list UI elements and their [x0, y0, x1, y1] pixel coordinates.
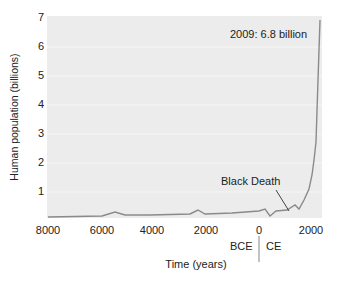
- y-axis-label: Human population (billions): [8, 53, 20, 180]
- grid-lines: [47, 47, 322, 192]
- y-tick-6: 6: [34, 40, 44, 52]
- annotation-black-death: Black Death: [221, 175, 280, 187]
- x-tick-6000: 6000: [90, 224, 114, 236]
- x-tick-2000-ce: 2000: [299, 224, 323, 236]
- population-line: [48, 20, 320, 217]
- bce-label: BCE: [230, 240, 253, 252]
- black-death-pointer: [276, 190, 289, 211]
- y-tick-7: 7: [34, 11, 44, 23]
- annotation-2009: 2009: 6.8 billion: [230, 28, 307, 40]
- x-tick-2000-bce: 2000: [194, 224, 218, 236]
- y-tick-1: 1: [34, 185, 44, 197]
- x-tick-4000: 4000: [140, 224, 164, 236]
- y-tick-5: 5: [34, 69, 44, 81]
- y-tick-3: 3: [34, 127, 44, 139]
- ce-label: CE: [266, 240, 281, 252]
- y-tick-2: 2: [34, 156, 44, 168]
- x-axis-label: Time (years): [165, 258, 226, 270]
- x-tick-0: 0: [256, 224, 262, 236]
- x-tick-8000: 8000: [36, 224, 60, 236]
- y-tick-4: 4: [34, 98, 44, 110]
- chart-svg: [0, 0, 343, 283]
